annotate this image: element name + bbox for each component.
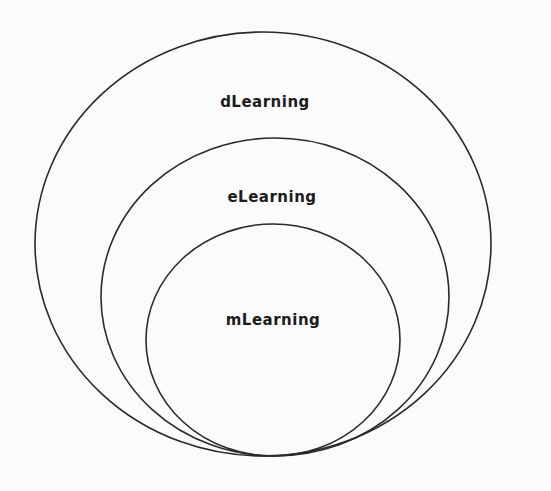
- elearning-ellipse: [101, 138, 449, 456]
- diagram-canvas: dLearning eLearning mLearning: [0, 0, 551, 491]
- mlearning-ellipse: [146, 224, 400, 456]
- mlearning-label: mLearning: [226, 311, 321, 329]
- dlearning-label: dLearning: [220, 93, 310, 111]
- elearning-label: eLearning: [227, 188, 316, 206]
- nested-ellipses-svg: [0, 0, 551, 491]
